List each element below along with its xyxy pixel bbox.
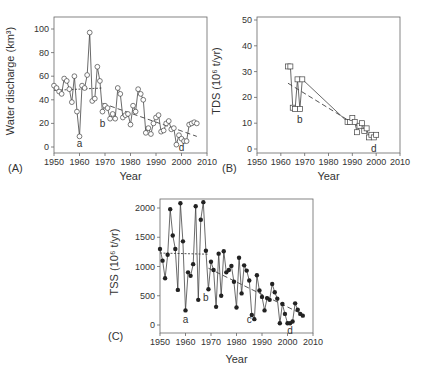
data-point xyxy=(222,249,226,253)
data-point xyxy=(290,319,294,323)
data-point xyxy=(64,79,69,84)
y-tick-label: 1500 xyxy=(135,232,155,242)
data-point xyxy=(69,100,74,105)
data-point xyxy=(239,291,243,295)
annotation-label: d xyxy=(179,142,185,153)
data-point xyxy=(352,119,357,124)
data-point xyxy=(85,73,90,78)
data-point xyxy=(296,308,300,312)
data-point xyxy=(128,122,133,127)
y-axis-label: TDS (10⁶ t/yr) xyxy=(210,47,222,114)
data-point xyxy=(113,116,118,121)
data-point xyxy=(156,113,161,118)
data-point xyxy=(98,79,103,84)
y-tick-label: 40 xyxy=(39,95,49,105)
data-point xyxy=(257,288,261,292)
x-tick-label: 1980 xyxy=(318,157,338,167)
data-point xyxy=(108,116,113,121)
data-point xyxy=(260,295,264,299)
data-point xyxy=(183,308,187,312)
chart-panel-a: 1950196019701980199020002010020406080100… xyxy=(4,17,217,182)
data-point xyxy=(275,296,279,300)
annotation-label: b xyxy=(297,114,303,125)
data-point xyxy=(188,274,192,278)
data-point xyxy=(229,264,233,268)
x-axis-label: Year xyxy=(119,170,142,182)
x-tick-label: 1970 xyxy=(295,157,315,167)
data-point xyxy=(301,313,305,317)
annotation-label: a xyxy=(183,314,189,325)
x-tick-label: 1950 xyxy=(247,157,267,167)
data-point xyxy=(151,121,156,126)
x-tick-label: 1960 xyxy=(271,157,291,167)
data-point xyxy=(234,305,238,309)
panel-label: (B) xyxy=(222,162,237,174)
y-tick-label: 60 xyxy=(39,71,49,81)
data-point xyxy=(214,305,218,309)
data-point xyxy=(278,321,282,325)
data-point xyxy=(267,298,271,302)
x-tick-label: 1970 xyxy=(95,157,115,167)
y-tick-label: 20 xyxy=(242,92,252,102)
y-tick-label: 2000 xyxy=(135,203,155,213)
data-point xyxy=(209,260,213,264)
data-point xyxy=(255,273,259,277)
chart-panel-c: 1950196019701980199020002010050010001500… xyxy=(108,199,323,365)
data-point xyxy=(288,64,293,69)
annotation-label: b xyxy=(203,292,209,303)
y-tick-label: 0 xyxy=(150,320,155,330)
data-point xyxy=(300,77,305,82)
data-point xyxy=(252,317,256,321)
y-axis-label: Water discharge (km³) xyxy=(4,27,16,135)
data-point xyxy=(206,287,210,291)
x-tick-label: 1960 xyxy=(69,157,89,167)
y-tick-label: 80 xyxy=(39,48,49,58)
y-tick-label: 20 xyxy=(39,118,49,128)
data-point xyxy=(133,109,138,114)
data-point xyxy=(273,290,277,294)
x-axis-label: Year xyxy=(225,353,248,365)
chart-panel-b: 195019601970198019902000201001020304050Y… xyxy=(210,15,410,182)
x-tick-label: 1970 xyxy=(201,337,221,347)
data-point xyxy=(118,92,123,97)
y-tick-label: 30 xyxy=(242,67,252,77)
data-point xyxy=(173,247,177,251)
y-tick-label: 40 xyxy=(242,41,252,51)
data-point xyxy=(95,64,100,69)
data-point xyxy=(280,302,284,306)
data-point xyxy=(115,86,120,91)
data-point xyxy=(355,130,360,135)
data-point xyxy=(105,106,110,111)
data-point xyxy=(181,239,185,243)
data-point xyxy=(141,97,146,102)
data-point xyxy=(237,256,241,260)
data-point xyxy=(178,201,182,205)
data-point xyxy=(219,294,223,298)
data-point xyxy=(199,218,203,222)
data-point xyxy=(232,280,236,284)
data-point xyxy=(160,258,164,262)
data-point xyxy=(163,276,167,280)
annotation-label: d xyxy=(287,325,293,336)
data-point xyxy=(110,112,115,117)
data-point xyxy=(165,253,169,257)
data-point xyxy=(374,132,379,137)
data-point xyxy=(149,132,154,137)
data-point xyxy=(82,86,87,91)
data-point xyxy=(176,288,180,292)
x-tick-label: 1960 xyxy=(175,337,195,347)
data-point xyxy=(293,301,297,305)
data-point xyxy=(216,251,220,255)
data-point xyxy=(131,103,136,108)
data-point xyxy=(59,92,64,97)
data-point xyxy=(136,87,141,92)
data-point xyxy=(171,233,175,237)
data-point xyxy=(242,263,246,267)
data-point xyxy=(196,298,200,302)
x-tick-label: 2000 xyxy=(277,337,297,347)
plot-frame xyxy=(54,17,207,153)
data-point xyxy=(262,308,266,312)
y-tick-label: 100 xyxy=(34,24,49,34)
data-point xyxy=(194,121,199,126)
data-point xyxy=(297,107,302,112)
